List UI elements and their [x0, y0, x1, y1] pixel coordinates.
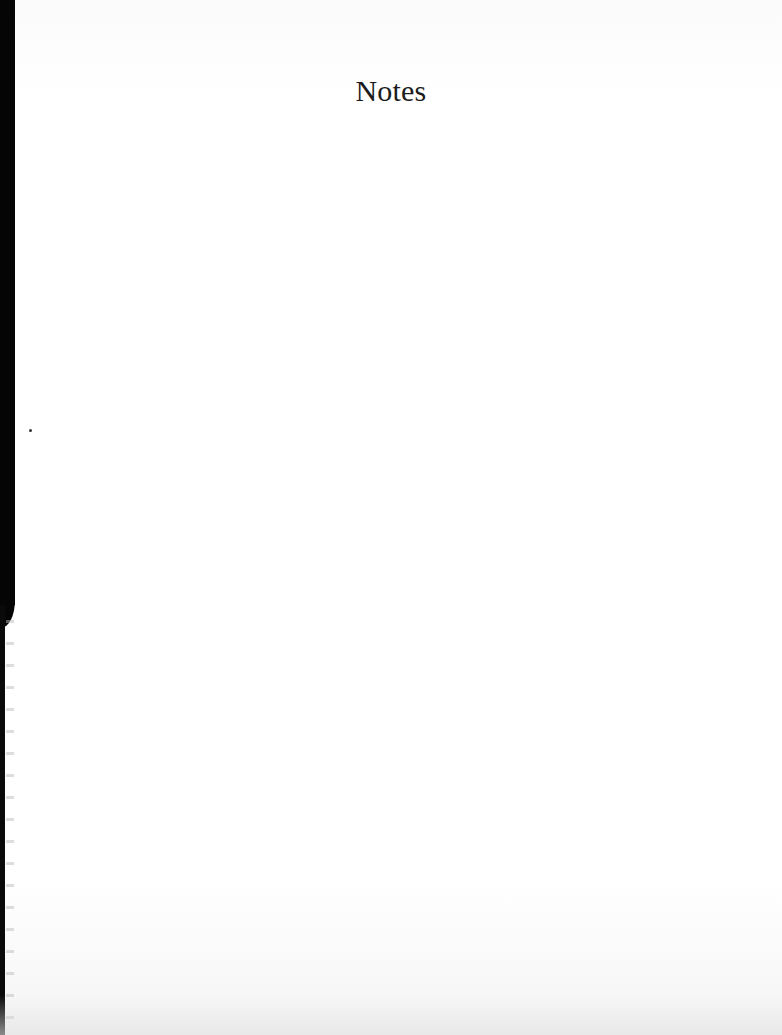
- page-title: Notes: [0, 74, 782, 108]
- scanned-page: Notes: [0, 0, 782, 1035]
- scan-speck: [29, 429, 32, 432]
- gutter-marks: [6, 620, 14, 1030]
- bottom-edge-shade: [0, 995, 782, 1035]
- binding-edge-lower: [0, 605, 5, 1035]
